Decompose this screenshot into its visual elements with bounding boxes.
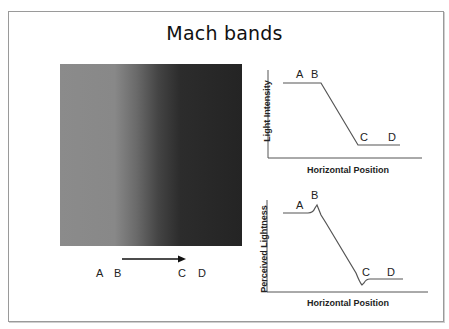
top-chart-x-axis-label: Horizontal Position	[306, 165, 390, 175]
bottom-chart-y-axis-label: Perceived Lightness	[259, 197, 269, 301]
arrow-right-icon	[122, 256, 186, 263]
bottom-label-a: A	[296, 199, 303, 211]
gradient-label-c: C	[178, 267, 186, 279]
top-label-c: C	[360, 131, 368, 143]
bottom-label-d: D	[387, 266, 395, 278]
bottom-chart-lightness-line	[283, 205, 403, 285]
bottom-label-c: C	[362, 266, 370, 278]
top-label-b: B	[311, 68, 318, 80]
bottom-label-b: B	[311, 189, 318, 201]
top-label-a: A	[296, 68, 303, 80]
top-label-d: D	[388, 131, 396, 143]
gradient-label-d: D	[198, 267, 206, 279]
bottom-chart-axes	[267, 200, 428, 292]
bottom-chart-x-axis-label: Horizontal Position	[306, 298, 390, 308]
top-chart-y-axis-label: Light Intensity	[262, 73, 272, 149]
top-chart-intensity-line	[283, 83, 400, 145]
gradient-label-a: A	[96, 267, 103, 279]
gradient-label-b: B	[114, 267, 121, 279]
